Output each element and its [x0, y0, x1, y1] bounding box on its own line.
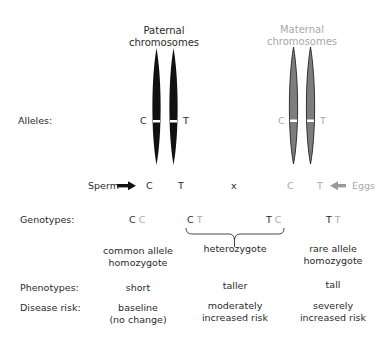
sperm-allele-c: C — [146, 180, 153, 192]
risk-severe: severely increased risk — [300, 300, 366, 324]
genotype-ct: C T — [187, 214, 202, 226]
maternal-chromosome-c — [289, 47, 297, 164]
phenotype-tall: tall — [326, 279, 341, 291]
paternal-allele-c: C — [140, 115, 147, 127]
egg-allele-t: T — [317, 180, 323, 192]
paternal-chromosome-c — [152, 48, 160, 165]
eggs-label: Eggs — [352, 180, 375, 192]
class-common-homozygote: common allele homozygote — [103, 245, 173, 269]
label-phenotypes: Phenotypes: — [20, 282, 79, 294]
arrow-right-icon — [117, 181, 136, 190]
risk-baseline: baseline (no change) — [109, 302, 166, 326]
class-heterozygote: heterozygote — [204, 243, 267, 255]
paternal-title: Paternal chromosomes — [129, 25, 199, 49]
genotype-cc: C C — [129, 214, 145, 226]
allele-band — [290, 120, 297, 123]
paternal-allele-t: T — [183, 115, 189, 127]
egg-allele-c: C — [287, 180, 294, 192]
maternal-chromosome-t — [306, 47, 314, 164]
maternal-chromosomes — [289, 47, 314, 164]
arrow-left-icon — [330, 181, 346, 190]
genotype-tt: T T — [326, 214, 341, 226]
paternal-chromosomes — [152, 48, 177, 165]
sperm-label: Sperm — [88, 180, 119, 192]
maternal-allele-c: C — [278, 115, 285, 127]
allele-band — [307, 120, 314, 123]
genotype-tc: T C — [266, 214, 281, 226]
cross-symbol: x — [231, 180, 237, 192]
brace-icon — [186, 228, 284, 240]
class-rare-homozygote: rare allele homozygote — [304, 243, 363, 267]
allele-band — [170, 120, 177, 123]
phenotype-short: short — [126, 282, 150, 294]
label-genotypes: Genotypes: — [20, 214, 74, 226]
paternal-chromosome-t — [169, 48, 177, 165]
label-alleles: Alleles: — [18, 115, 52, 127]
maternal-title: Maternal chromosomes — [267, 24, 337, 48]
sperm-allele-t: T — [178, 180, 184, 192]
risk-moderate: moderately increased risk — [202, 300, 268, 324]
phenotype-taller: taller — [223, 280, 248, 292]
allele-band — [153, 120, 160, 123]
maternal-allele-t: T — [320, 115, 326, 127]
label-disease-risk: Disease risk: — [20, 302, 81, 314]
